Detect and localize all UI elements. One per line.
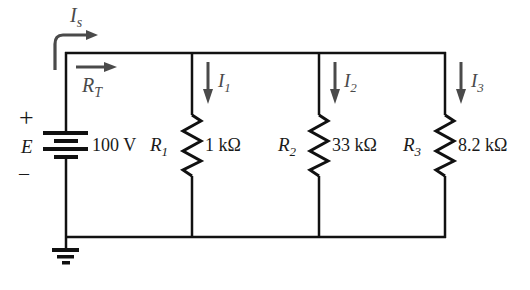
battery-icon	[43, 131, 88, 159]
branch-2-current-arrow-icon	[330, 62, 340, 104]
ground-icon	[52, 248, 79, 265]
resistor-r1-value: 1 kΩ	[205, 135, 241, 155]
resistor-r3-label: R3	[402, 134, 422, 159]
total-resistance-label: RT	[81, 74, 103, 100]
resistor-r3-icon	[436, 115, 454, 176]
resistor-r2-icon	[310, 115, 328, 176]
source-current-label: Is	[69, 4, 83, 30]
branch-2-current-label: I2	[343, 70, 357, 95]
source-value-label: 100 V	[92, 135, 136, 155]
source-name-label: E	[20, 136, 33, 157]
resistor-r3-value: 8.2 kΩ	[458, 135, 507, 155]
positive-terminal-label: +	[19, 103, 34, 132]
circuit-diagram: Is RT + E – 100 V R1 1 kΩ I1 R2 33 kΩ I2…	[0, 0, 530, 290]
resistor-r2-value: 33 kΩ	[332, 135, 377, 155]
branch-3-current-arrow-icon	[456, 62, 466, 104]
resistor-r1-icon	[183, 115, 201, 176]
source-current-arrow-icon	[55, 30, 98, 70]
branch-1-current-label: I1	[217, 70, 231, 95]
branch-1-current-arrow-icon	[203, 62, 213, 104]
total-resistance-arrow-icon	[76, 62, 117, 72]
branch-3-current-label: I3	[470, 70, 484, 95]
negative-terminal-label: –	[18, 162, 30, 184]
resistor-r2-label: R2	[277, 134, 297, 159]
resistor-r1-label: R1	[149, 134, 168, 159]
